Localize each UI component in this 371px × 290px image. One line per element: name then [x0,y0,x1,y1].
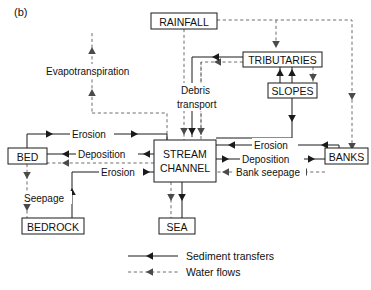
system-flow-diagram: RAINFALL TRIBUTARIES SLOPES BED STREAM C… [0,0,371,290]
label-erosion-banks-text: Erosion [254,140,288,151]
node-tributaries[interactable]: TRIBUTARIES [243,52,322,67]
legend-sediment-arrow [146,252,153,260]
node-stream-channel[interactable]: STREAM CHANNEL [154,140,216,182]
node-bed[interactable]: BED [8,148,47,164]
node-sea[interactable]: SEA [159,218,195,234]
label-bank-seepage-text: Bank seepage [236,167,300,178]
label-deposition-bed-text: Deposition [78,149,125,160]
legend-item-water: Water flows [128,266,240,278]
rainfall-banks-arrow-mid [348,93,356,100]
bed-erosion-arrow-right [131,130,138,138]
label-seepage: Seepage [22,191,72,204]
evapotranspiration-arrow-upper [88,47,96,54]
panel-label: (b) [14,6,27,18]
water-flow-paths [23,20,356,218]
node-slopes-label: SLOPES [271,85,313,97]
node-rainfall[interactable]: RAINFALL [151,13,217,29]
bank-seepage-arrow-left [222,168,229,176]
label-erosion-bed: Erosion [70,127,114,140]
label-deposition-banks-text: Deposition [242,154,289,165]
debris-transport-arrow-down [188,128,196,135]
label-deposition-bed: Deposition [76,147,138,160]
deposition-banks-arrow-left [222,155,229,163]
legend: Sediment transfers Water flows [128,250,274,278]
label-erosion-banks: Erosion [252,138,298,151]
seepage-arrow-upper [23,172,31,179]
node-stream-channel-label-line2: CHANNEL [160,162,210,174]
label-evapotranspiration: Evapotranspiration [45,64,140,78]
label-evapotranspiration-text: Evapotranspiration [46,66,129,77]
slopes-tributaries-arrow-a [276,69,284,76]
channel-sea-arrow [178,194,186,201]
node-bedrock[interactable]: BEDROCK [22,218,84,234]
label-erosion-bedrock-text: Erosion [101,167,135,178]
channel-bed-water-arrow [62,159,69,167]
slopes-channel-arrow-down [288,115,296,122]
label-deposition-banks: Deposition [240,152,304,165]
figure-panel-b: RAINFALL TRIBUTARIES SLOPES BED STREAM C… [0,0,371,290]
legend-water-arrow [146,268,153,276]
label-bank-seepage: Bank seepage [234,165,306,178]
debris-water-arrow [197,128,205,135]
channel-sea-water-arrow [167,194,175,201]
node-tributaries-label: TRIBUTARIES [248,54,317,66]
deposition-banks-arrow-right [308,155,315,163]
label-debris-transport-line1: Debris [181,85,210,96]
evapotranspiration-arrow-lower [88,89,96,96]
node-banks[interactable]: BANKS [325,148,368,164]
deposition-bed-arrow-left [62,150,69,158]
node-banks-label: BANKS [329,151,365,163]
label-seepage-text: Seepage [24,193,64,204]
slopes-water-arrow [309,74,317,81]
slopes-tributaries-arrow-b [288,69,296,76]
debris-transport-arrow-left [212,53,219,61]
rainfall-channel-arrow [180,128,188,135]
label-debris-transport: Debris transport [175,83,231,111]
label-erosion-bedrock: Erosion [99,165,143,178]
banks-erosion-arrow-left [228,141,235,149]
deposition-bed-arrow-right [143,150,150,158]
bedrock-erosion-arrow-right [143,168,150,176]
seepage-arrow-lower [23,204,31,211]
legend-sediment-label: Sediment transfers [186,250,274,262]
node-rainfall-label: RAINFALL [159,16,209,28]
label-erosion-bed-text: Erosion [72,129,106,140]
node-stream-channel-label-line1: STREAM [163,148,207,160]
node-bed-label: BED [17,151,39,163]
legend-item-sediment: Sediment transfers [128,250,274,262]
bed-erosion-arrow-left [46,130,53,138]
rainfall-tributaries-arrow [272,41,280,48]
node-bedrock-label: BEDROCK [27,221,79,233]
node-slopes[interactable]: SLOPES [268,83,317,98]
node-sea-label: SEA [166,221,187,233]
label-debris-transport-line2: transport [177,99,217,110]
legend-water-label: Water flows [186,266,240,278]
bedrock-erosion-path [72,172,154,218]
